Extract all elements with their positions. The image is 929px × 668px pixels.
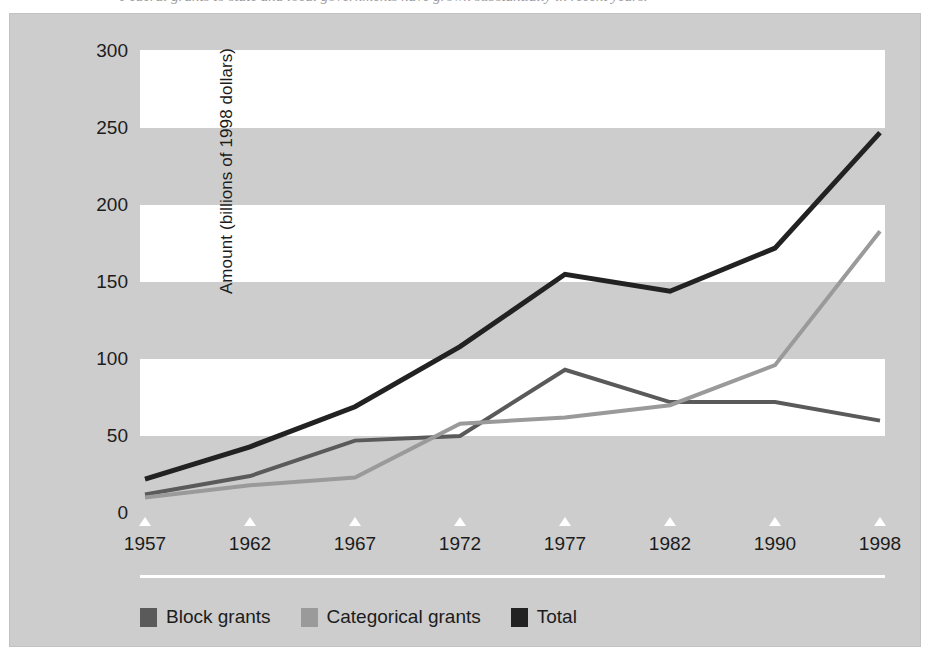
y-tick-label: 100 [68, 349, 128, 368]
series-line-categorical-grants [145, 231, 880, 497]
x-tick-label: 1972 [415, 533, 505, 555]
x-tick-marker [349, 517, 361, 526]
x-tick-label: 1982 [625, 533, 715, 555]
legend-swatch-icon [301, 608, 318, 627]
legend-divider [140, 575, 885, 578]
x-tick-label: 1977 [520, 533, 610, 555]
legend-swatch-icon [140, 608, 157, 627]
plot-area: 050100150200250300 195719621967197219771… [140, 51, 885, 513]
figure-caption-strip: Federal grants to state and local govern… [0, 0, 929, 14]
chart-legend: Block grantsCategorical grantsTotal [140, 606, 577, 628]
y-tick-label: 200 [68, 195, 128, 214]
x-tick-label: 1990 [730, 533, 820, 555]
legend-label: Total [537, 606, 577, 628]
x-tick-label: 1962 [205, 533, 295, 555]
x-tick-marker [454, 517, 466, 526]
legend-swatch-icon [511, 608, 528, 627]
figure-caption: Federal grants to state and local govern… [120, 0, 648, 5]
x-tick-marker [664, 517, 676, 526]
y-tick-label: 250 [68, 118, 128, 137]
y-tick-label: 50 [68, 426, 128, 445]
x-tick-label: 1957 [100, 533, 190, 555]
chart-figure: 050100150200250300 195719621967197219771… [10, 14, 920, 646]
x-tick-label: 1998 [835, 533, 925, 555]
x-tick-marker [874, 517, 886, 526]
line-series-layer [140, 51, 885, 513]
y-axis-title: Amount (billions of 1998 dollars) [217, 21, 237, 321]
x-tick-marker [559, 517, 571, 526]
legend-item[interactable]: Block grants [140, 606, 271, 628]
y-tick-label: 0 [68, 503, 128, 522]
legend-item[interactable]: Categorical grants [301, 606, 481, 628]
legend-item[interactable]: Total [511, 606, 577, 628]
series-line-block-grants [145, 370, 880, 495]
legend-label: Categorical grants [327, 606, 481, 628]
y-tick-label: 300 [68, 41, 128, 60]
x-tick-marker [139, 517, 151, 526]
legend-label: Block grants [166, 606, 271, 628]
x-tick-label: 1967 [310, 533, 400, 555]
x-tick-marker [244, 517, 256, 526]
x-tick-marker [769, 517, 781, 526]
y-tick-label: 150 [68, 272, 128, 291]
series-line-total [145, 133, 880, 480]
